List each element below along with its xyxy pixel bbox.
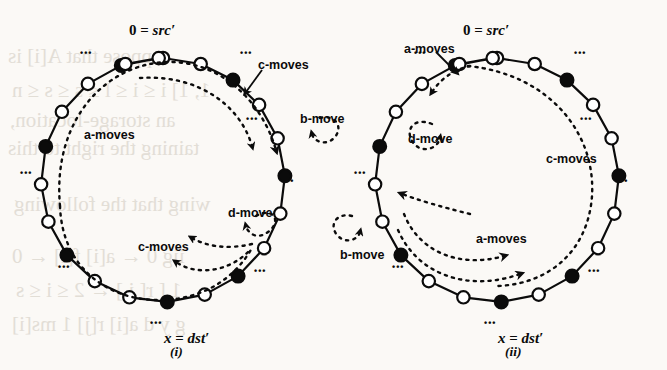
arc-c-moves-i-upper: [140, 78, 252, 146]
node-hollow-ii-3: [587, 99, 599, 111]
node-filled-ii-8: [566, 270, 579, 283]
ellipsis-ii-7: •••: [484, 318, 496, 328]
ellipsis-ii-5: •••: [392, 262, 404, 272]
move-label-c-moves-upper-i: c-moves: [258, 58, 309, 72]
node-hollow-i-14: [42, 216, 54, 228]
ellipsis-i-5: •••: [58, 262, 70, 272]
node-hollow-i-1: [195, 58, 207, 70]
node-hollow-ii-14: [376, 216, 388, 228]
node-hollow-i-21: [119, 58, 131, 70]
node-hollow-i-6: [274, 207, 286, 219]
node-hollow-i-15: [35, 178, 47, 190]
leader-c-moves-i: [246, 70, 262, 92]
move-label-a-moves-i: a-moves: [84, 128, 135, 142]
node-filled-ii-13: [395, 249, 408, 262]
arc-a-moves-ii-up: [402, 194, 470, 214]
ellipsis-i-7: •••: [150, 318, 162, 328]
src-label-i: 0 = src′: [129, 22, 175, 39]
ellipsis-ii-3: •••: [580, 114, 592, 124]
node-filled-i-10: [161, 296, 174, 309]
node-hollow-ii-12: [423, 275, 435, 287]
ring-paths: [41, 58, 619, 302]
ring-path-panel-i: [41, 58, 285, 302]
node-hollow-ii-7: [592, 242, 604, 254]
arc-c-moves-ii: [468, 66, 592, 286]
move-label-b-move-i: b-move: [300, 112, 344, 126]
node-hollow-ii-4: [605, 132, 617, 144]
ellipsis-ii-1: •••: [574, 48, 586, 58]
arc-b-move-ii: [334, 215, 360, 240]
move-label-b-move-ii: b-move: [340, 248, 384, 262]
src-label-ii: 0 = src′: [463, 22, 509, 39]
move-label-d-move-ii: d-move: [408, 132, 452, 146]
ellipsis-ii-2: •••: [354, 168, 366, 178]
figure-ring-diagram: ppose that A[i] is1, 1] i ≤ i ≤ l ≤ s ≤ …: [0, 0, 667, 370]
node-hollow-ii-18: [416, 78, 428, 90]
ellipsis-i-4: •••: [282, 176, 294, 186]
node-hollow-ii-17: [390, 106, 402, 118]
move-label-d-move-i: d-move: [228, 206, 272, 220]
ellipsis-i-1: •••: [240, 48, 252, 58]
panel-caption-i: (i): [170, 344, 183, 360]
node-filled-ii-16: [373, 140, 386, 153]
node-hollow-ii-11: [457, 291, 469, 303]
move-label-c-moves-ii: c-moves: [546, 152, 597, 166]
node-filled-i-8: [232, 270, 245, 283]
panel-i-move-arcs: [59, 62, 338, 300]
node-filled-ii-10: [495, 296, 508, 309]
node-hollow-i-17: [56, 106, 68, 118]
ellipsis-ii-4: •••: [616, 176, 628, 186]
move-label-a-moves-top-ii: a-moves: [404, 42, 455, 56]
node-hollow-ii-15: [369, 178, 381, 190]
node-filled-i-16: [39, 140, 52, 153]
ring-path-panel-ii: [375, 58, 619, 302]
node-hollow-ii-20: [487, 52, 499, 64]
node-hollow-i-7: [258, 242, 270, 254]
ellipsis-i-2: •••: [20, 168, 32, 178]
arc-c-moves-i-lower2: [192, 238, 252, 247]
diagram-artwork: [0, 0, 667, 370]
ellipsis-i-6: •••: [254, 266, 266, 276]
ellipsis-i-3: •••: [246, 114, 258, 124]
panel-caption-ii: (ii): [505, 344, 522, 360]
node-hollow-i-18: [82, 78, 94, 90]
node-hollow-ii-6: [608, 207, 620, 219]
node-hollow-i-12: [89, 275, 101, 287]
node-hollow-ii-9: [533, 288, 545, 300]
move-label-c-moves-lower-i: c-moves: [138, 240, 189, 254]
node-hollow-ii-1: [529, 58, 541, 70]
ellipsis-i-0: •••: [80, 48, 92, 58]
node-hollow-i-3: [253, 99, 265, 111]
ellipsis-ii-6: •••: [588, 266, 600, 276]
move-label-a-moves-inner-ii: a-moves: [476, 232, 527, 246]
node-filled-ii-2: [561, 74, 574, 87]
